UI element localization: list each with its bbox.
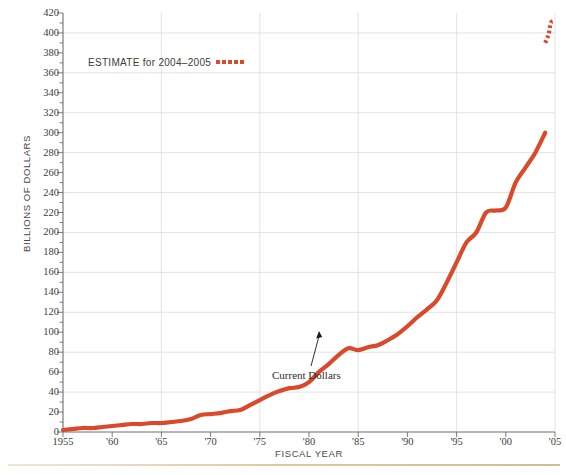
chart-canvas: 0204060801001201401601802002202402602803… bbox=[0, 0, 566, 475]
x-tick-label: 1955 bbox=[43, 436, 83, 447]
y-tick-label: 200 bbox=[11, 227, 59, 237]
series-line-estimate bbox=[545, 21, 555, 43]
y-tick-label: 180 bbox=[11, 247, 59, 257]
chart-legend: ESTIMATE for 2004–2005 bbox=[88, 55, 246, 68]
legend-dotted-swatch bbox=[216, 55, 246, 66]
y-tick-label: 220 bbox=[11, 208, 59, 218]
horizontal-gridlines bbox=[63, 33, 555, 392]
vertical-gridlines bbox=[161, 13, 555, 432]
y-tick-label: 280 bbox=[11, 148, 59, 158]
y-tick-label: 340 bbox=[11, 88, 59, 98]
y-axis-title: BILLIONS OF DOLLARS bbox=[21, 104, 32, 284]
x-tick-label: '00 bbox=[486, 436, 526, 447]
y-tick-label: 80 bbox=[11, 347, 59, 357]
line-chart-plot bbox=[0, 0, 566, 475]
x-tick-label: '90 bbox=[387, 436, 427, 447]
y-tick-label: 320 bbox=[11, 108, 59, 118]
x-tick-label: '70 bbox=[191, 436, 231, 447]
y-tick-label: 40 bbox=[11, 387, 59, 397]
x-tick-label: '75 bbox=[240, 436, 280, 447]
y-tick-label: 380 bbox=[11, 48, 59, 58]
x-tick-label: '65 bbox=[141, 436, 181, 447]
x-tick-label: '60 bbox=[92, 436, 132, 447]
series-line-current-dollars bbox=[63, 133, 545, 430]
x-tick-label: '05 bbox=[535, 436, 566, 447]
annotation-label-current-dollars: Current Dollars bbox=[272, 369, 341, 381]
x-tick-label: '85 bbox=[338, 436, 378, 447]
y-tick-label: 140 bbox=[11, 287, 59, 297]
x-axis-title: FISCAL YEAR bbox=[63, 448, 555, 459]
bottom-divider-rule bbox=[8, 464, 560, 466]
x-tick-label: '95 bbox=[437, 436, 477, 447]
y-tick-label: 160 bbox=[11, 267, 59, 277]
y-tick-label: 20 bbox=[11, 407, 59, 417]
legend-label: ESTIMATE for 2004–2005 bbox=[88, 57, 211, 68]
y-tick-label: 300 bbox=[11, 128, 59, 138]
annotation-arrow bbox=[311, 331, 322, 366]
y-tick-label: 100 bbox=[11, 327, 59, 337]
y-tick-label: 260 bbox=[11, 168, 59, 178]
y-tick-label: 360 bbox=[11, 68, 59, 78]
y-tick-label: 240 bbox=[11, 188, 59, 198]
y-tick-label: 120 bbox=[11, 307, 59, 317]
x-tick-label: '80 bbox=[289, 436, 329, 447]
y-tick-label: 420 bbox=[11, 8, 59, 18]
y-tick-label: 400 bbox=[11, 28, 59, 38]
y-tick-label: 60 bbox=[11, 367, 59, 377]
